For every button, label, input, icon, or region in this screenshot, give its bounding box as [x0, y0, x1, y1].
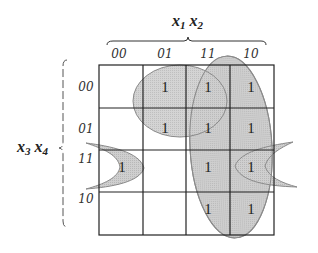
karnaugh-map: x1x2 00 01 11 10 x3x4 00 01 11 10 1 1 1 … — [0, 0, 318, 253]
column-variables-label: x1x2 — [171, 12, 204, 31]
group-x2-x3bar — [133, 65, 227, 137]
cell-r2-c0: 1 — [118, 159, 126, 175]
cell-r3-c2: 1 — [204, 201, 212, 217]
cell-r1-c3: 1 — [247, 120, 255, 136]
cell-r0-c1: 1 — [161, 79, 169, 95]
column-label-11: 11 — [200, 47, 215, 61]
cell-r2-c3: 1 — [247, 159, 255, 175]
row-variables-label: x3x4 — [16, 138, 49, 157]
column-label-00: 00 — [111, 47, 127, 61]
column-brace — [107, 37, 266, 45]
cell-r0-c2: 1 — [204, 79, 212, 95]
row-label-01: 01 — [78, 122, 93, 136]
row-label-11: 11 — [78, 152, 93, 166]
cell-r1-c2: 1 — [204, 120, 212, 136]
row-brace — [59, 60, 67, 227]
row-label-00: 00 — [78, 80, 94, 94]
cell-r2-c2: 1 — [204, 159, 212, 175]
cell-r0-c3: 1 — [247, 79, 255, 95]
cell-r3-c3: 1 — [247, 201, 255, 217]
column-label-10: 10 — [243, 47, 259, 61]
grouping-layer — [86, 54, 297, 240]
cell-r1-c1: 1 — [161, 120, 169, 136]
row-label-10: 10 — [78, 192, 94, 206]
column-label-01: 01 — [157, 47, 172, 61]
